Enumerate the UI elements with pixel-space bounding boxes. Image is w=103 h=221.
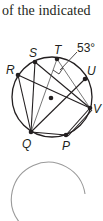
point-S: [33, 60, 38, 65]
partial-circle-arc: [11, 162, 85, 221]
chord-UQ: [31, 79, 85, 132]
chord-PV-double: [68, 110, 92, 136]
point-T: [55, 57, 60, 62]
label-U: U: [87, 64, 96, 78]
point-R: [16, 73, 21, 78]
point-Q: [29, 130, 34, 135]
circle-diagram: 53° R S T U V Q P: [0, 0, 103, 221]
label-Q: Q: [22, 137, 31, 151]
label-S: S: [29, 46, 37, 60]
center-point: [49, 96, 54, 101]
chord-PV: [66, 108, 90, 135]
label-R: R: [6, 63, 15, 77]
point-P: [64, 133, 69, 138]
angle-leader-line: [60, 52, 77, 70]
point-V: [88, 106, 93, 111]
chord-RQ: [18, 75, 31, 132]
angle-label: 53°: [77, 41, 95, 55]
label-V: V: [93, 102, 102, 116]
label-T: T: [54, 43, 63, 57]
label-P: P: [62, 139, 70, 153]
